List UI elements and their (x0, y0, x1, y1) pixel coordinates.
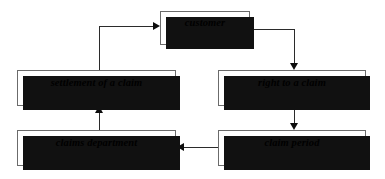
node-customer-label-cs: (zákazník) (185, 29, 225, 39)
node-claim-period-label-en: claim period (264, 137, 319, 148)
node-right-to-a-claim: right to a claim (nárok na reklamaci) (218, 70, 366, 106)
node-settlement-label-cs: (vyřízení reklamace) (57, 89, 137, 99)
node-right-to-claim-label-en: right to a claim (258, 77, 326, 88)
node-claims-department-label-cs: (reklamační oddělení) (54, 149, 140, 159)
edge-settlement-to-customer-vertical-segment (99, 26, 100, 71)
node-claims-department-label-en: claims department (56, 137, 137, 148)
edge-claim-period-to-claims-department-segment (184, 147, 218, 148)
edge-customer-to-right-to-claim-horizontal-segment (250, 29, 295, 30)
arrowhead-icon-to-right-to-claim (290, 63, 298, 70)
arrowhead-icon-to-customer (153, 22, 160, 30)
edge-claims-department-to-settlement-segment (99, 112, 100, 130)
edge-customer-to-right-to-claim-vertical-segment (294, 29, 295, 64)
flowchart-diagram: customer (zákazník) settlement of a clai… (0, 0, 385, 179)
node-right-to-claim-label-cs: (nárok na reklamaci) (251, 89, 333, 99)
node-claim-period-label-cs: (reklamační lhůta) (256, 149, 328, 159)
node-settlement-label-en: settlement of a claim (51, 77, 143, 88)
node-customer: customer (zákazník) (160, 11, 250, 45)
node-claim-period: claim period (reklamační lhůta) (218, 130, 366, 166)
node-customer-label-en: customer (185, 17, 225, 28)
arrowhead-icon-to-claim-period (290, 123, 298, 130)
node-claims-department: claims department (reklamační oddělení) (17, 130, 176, 166)
edge-settlement-to-customer-horizontal-segment (99, 26, 153, 27)
node-settlement-of-a-claim: settlement of a claim (vyřízení reklamac… (17, 70, 176, 106)
